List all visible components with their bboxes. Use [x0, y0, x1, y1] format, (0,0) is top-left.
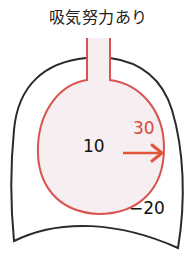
transpulmonary-pressure-label: 30 — [133, 120, 155, 137]
lung-diagram — [0, 0, 196, 260]
alveolar-pressure-label: 10 — [83, 138, 105, 155]
pleural-pressure-label: −20 — [129, 200, 165, 217]
